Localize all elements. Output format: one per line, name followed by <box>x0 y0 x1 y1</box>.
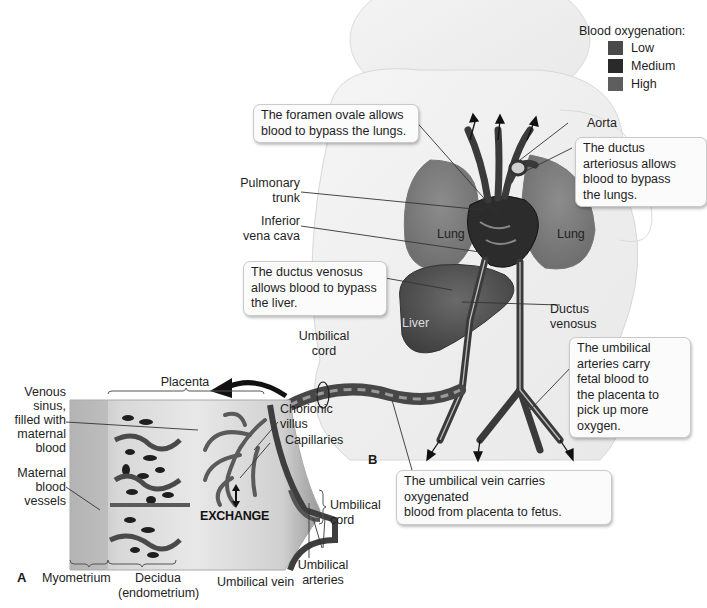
label-ductus-venosus: Ductus venosus <box>550 302 597 332</box>
label-umbilical-vein: Umbilical vein <box>217 575 294 590</box>
label-lung-left: Lung <box>437 227 465 242</box>
callout-line: arteries carry <box>577 357 683 373</box>
label-liver: Liver <box>402 316 429 331</box>
label-inferior-vena-cava: Inferior vena cava <box>228 214 300 244</box>
callout-line: The ductus venosus <box>251 265 379 281</box>
callout-umbilical-vein: The umbilical vein carries oxygenated bl… <box>396 470 612 525</box>
label-umbilical-cord-top: Umbilical cord <box>296 329 352 359</box>
label-exchange: EXCHANGE <box>200 509 269 523</box>
legend-item-high: High <box>608 76 657 92</box>
label-line: Decidua <box>118 571 198 586</box>
label-capillaries: Capillaries <box>285 433 343 448</box>
label-line: trunk <box>228 191 300 206</box>
legend-item-medium: Medium <box>608 58 675 74</box>
legend-swatch-high <box>608 77 623 91</box>
callout-line: the lungs. <box>583 188 699 204</box>
label-myometrium: Myometrium <box>42 571 111 586</box>
label-line: Maternal <box>0 466 66 480</box>
legend-swatch-low <box>608 41 623 55</box>
label-umbilical-arteries: Umbilical arteries <box>290 558 356 588</box>
legend-item-low: Low <box>608 40 654 56</box>
callout-line: The ductus <box>583 141 699 157</box>
label-line: cord <box>330 513 381 528</box>
label-venous-sinus: Venous sinus, filled with maternal blood <box>0 385 66 455</box>
label-aorta: Aorta <box>587 116 617 131</box>
callout-line: blood from placenta to fetus. <box>404 505 604 521</box>
label-line: Chorionic <box>280 402 333 417</box>
label-line: vena cava <box>228 229 300 244</box>
label-line: Umbilical <box>296 329 352 344</box>
legend-label-high: High <box>631 77 657 91</box>
label-line: blood <box>0 480 66 494</box>
callout-line: The umbilical <box>577 341 683 357</box>
callout-line: fetal blood to <box>577 372 683 388</box>
callout-line: the liver. <box>251 296 379 312</box>
label-lung-right: Lung <box>557 227 585 242</box>
callout-ductus-venosus: The ductus venosus allows blood to bypas… <box>243 261 387 316</box>
callout-line: the placenta to <box>577 388 683 404</box>
label-line: venosus <box>550 317 597 332</box>
label-chorionic-villus: Chorionic villus <box>280 402 333 432</box>
callout-line: blood to bypass <box>583 172 699 188</box>
label-line: (endometrium) <box>118 586 198 601</box>
callout-line: allows blood to bypass <box>251 281 379 297</box>
label-placenta: Placenta <box>155 375 215 390</box>
callout-line: The umbilical vein carries oxygenated <box>404 474 604 505</box>
legend-label-low: Low <box>631 41 654 55</box>
legend-swatch-medium <box>608 59 623 73</box>
callout-umbilical-arteries: The umbilical arteries carry fetal blood… <box>569 337 691 438</box>
callout-line: The foramen ovale allows <box>261 108 411 124</box>
label-line: Umbilical <box>330 498 381 513</box>
callout-ductus-arteriosus: The ductus arteriosus allows blood to by… <box>575 137 707 207</box>
label-line: maternal <box>0 427 66 441</box>
label-line: Umbilical <box>290 558 356 573</box>
callout-line: pick up more <box>577 403 683 419</box>
label-line: sinus, <box>0 399 66 413</box>
label-line: arteries <box>290 573 356 588</box>
label-umbilical-cord-bottom: Umbilical cord <box>330 498 381 528</box>
label-line: Ductus <box>550 302 597 317</box>
label-pulmonary-trunk: Pulmonary trunk <box>228 176 300 206</box>
panel-label-b: B <box>368 452 377 467</box>
label-line: villus <box>280 417 333 432</box>
label-line: blood <box>0 441 66 455</box>
label-decidua: Decidua (endometrium) <box>118 571 198 601</box>
label-line: Pulmonary <box>228 176 300 191</box>
callout-line: arteriosus allows <box>583 157 699 173</box>
callout-line: blood to bypass the lungs. <box>261 124 411 140</box>
label-line: vessels <box>0 494 66 508</box>
legend-label-medium: Medium <box>631 59 675 73</box>
label-maternal-blood-vessels: Maternal blood vessels <box>0 466 66 508</box>
label-line: cord <box>296 344 352 359</box>
callout-line: oxygen. <box>577 419 683 435</box>
callout-foramen-ovale: The foramen ovale allows blood to bypass… <box>253 104 419 143</box>
legend-title: Blood oxygenation: <box>579 24 685 38</box>
label-line: Venous <box>0 385 66 399</box>
panel-label-a: A <box>17 570 26 585</box>
label-line: Inferior <box>228 214 300 229</box>
label-line: filled with <box>0 413 66 427</box>
